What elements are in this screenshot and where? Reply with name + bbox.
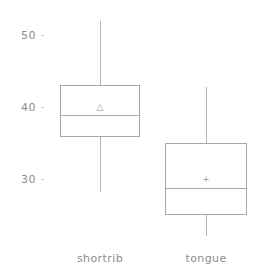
y-axis-tick-mark-50 [41, 35, 44, 36]
whisker-lower-tongue [206, 215, 207, 236]
median-line-tongue [165, 188, 247, 189]
y-axis-tick-label-50: 50 [21, 30, 36, 41]
y-axis-tick-label-40: 40 [21, 102, 36, 113]
mean-marker-shortrib: △ [97, 103, 104, 112]
y-axis-tick-mark-30 [41, 179, 44, 180]
whisker-lower-shortrib [100, 137, 101, 192]
x-axis-tick-label-tongue: tongue [185, 253, 226, 264]
median-line-shortrib [60, 115, 140, 116]
boxplot-figure: 50 40 30 △ + shortrib tongue [0, 0, 280, 280]
y-axis-tick-mark-40 [41, 107, 44, 108]
y-axis-tick-label-30: 30 [21, 174, 36, 185]
mean-marker-tongue: + [202, 175, 210, 184]
whisker-upper-tongue [206, 87, 207, 143]
x-axis-tick-label-shortrib: shortrib [77, 253, 123, 264]
whisker-upper-shortrib [100, 21, 101, 85]
